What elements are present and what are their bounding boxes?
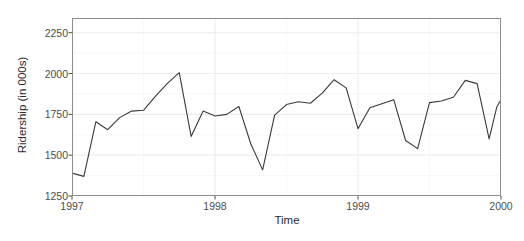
plot-area: [72, 18, 501, 196]
x-tick-label: 1999: [346, 200, 369, 212]
x-tick-label: 2000: [489, 200, 512, 212]
plot-panel: [72, 18, 501, 196]
x-tick-label: 1997: [60, 200, 83, 212]
x-tick-label: 1998: [203, 200, 226, 212]
line-chart: Ridership (in 000s) Time 125015001750200…: [0, 0, 524, 241]
